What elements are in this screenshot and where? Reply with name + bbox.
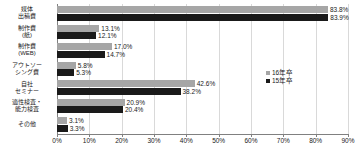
bar-16年卒 <box>57 117 67 124</box>
bar-value-label: 83.9% <box>328 14 348 21</box>
x-tick-label-50: 50% <box>204 137 234 145</box>
x-tick-label-90: 90% <box>333 137 363 145</box>
bar-16年卒 <box>57 43 112 50</box>
category-label-line: シング費 <box>1 69 53 76</box>
legend-item-0: 16年卒 <box>266 69 293 77</box>
legend-item-1: 15年卒 <box>266 77 293 85</box>
bar-group: 17.0% <box>57 43 348 50</box>
bar-16年卒 <box>57 62 76 69</box>
bar-15年卒 <box>57 125 68 132</box>
category-label: 適性検査・能力検査 <box>1 99 53 113</box>
chart-legend: 16年卒 15年卒 <box>266 69 293 85</box>
bar-value-label: 5.8% <box>76 62 93 69</box>
category-label: 制作費(WEB) <box>1 43 53 57</box>
category-label-line: アウトソー <box>1 62 53 69</box>
bar-row: 制作費(WEB)17.0%14.7% <box>0 41 364 60</box>
category-label-line: その他 <box>1 121 53 128</box>
bar-row: 制作費(紙)13.1%12.1% <box>0 23 364 42</box>
legend-swatch-icon-15 <box>266 79 270 83</box>
bar-row: 自社セミナー42.6%38.2% <box>0 78 364 97</box>
bar-group: 13.1% <box>57 25 348 32</box>
legend-label-15: 15年卒 <box>272 77 293 85</box>
category-label-line: (紙) <box>1 32 53 39</box>
category-label-line: 能力検査 <box>1 106 53 113</box>
category-label: その他 <box>1 121 53 128</box>
category-label-line: 自社 <box>1 81 53 88</box>
x-tick-label-10: 10% <box>74 137 104 145</box>
bar-15年卒 <box>57 14 328 21</box>
bar-15年卒 <box>57 51 105 58</box>
bar-value-label: 5.3% <box>74 69 91 76</box>
bar-row: 適性検査・能力検査20.9%20.4% <box>0 97 364 116</box>
bar-value-label: 20.9% <box>125 99 145 106</box>
bar-group: 83.9% <box>57 14 348 21</box>
bar-group: 3.1% <box>57 117 348 124</box>
bar-15年卒 <box>57 106 123 113</box>
bar-15年卒 <box>57 88 181 95</box>
category-label: アウトソーシング費 <box>1 62 53 76</box>
category-label-line: (WEB) <box>1 50 53 57</box>
bar-value-label: 3.1% <box>67 117 84 124</box>
bar-group: 38.2% <box>57 88 348 95</box>
bar-row: その他3.1%3.3% <box>0 115 364 134</box>
category-label: 媒体出稿費 <box>1 6 53 20</box>
horizontal-bar-chart: 媒体出稿費83.8%83.9%制作費(紙)13.1%12.1%制作費(WEB)1… <box>0 0 364 157</box>
bar-group: 20.9% <box>57 99 348 106</box>
x-axis-line <box>57 134 349 135</box>
bar-row: アウトソーシング費5.8%5.3% <box>0 60 364 79</box>
bar-group: 12.1% <box>57 32 348 39</box>
bar-group: 3.3% <box>57 125 348 132</box>
bar-row: 媒体出稿費83.8%83.9% <box>0 4 364 23</box>
bar-value-label: 17.0% <box>112 43 132 50</box>
category-label-line: 制作費 <box>1 25 53 32</box>
bar-16年卒 <box>57 80 195 87</box>
bar-group: 20.4% <box>57 106 348 113</box>
category-label: 自社セミナー <box>1 81 53 95</box>
bar-16年卒 <box>57 99 125 106</box>
x-tick-label-80: 80% <box>301 137 331 145</box>
legend-label-16: 16年卒 <box>272 69 293 77</box>
category-label-line: セミナー <box>1 88 53 95</box>
bar-15年卒 <box>57 32 96 39</box>
bar-15年卒 <box>57 69 74 76</box>
bar-group: 5.3% <box>57 69 348 76</box>
x-tick-label-20: 20% <box>107 137 137 145</box>
x-tick-label-0: 0% <box>42 137 72 145</box>
bar-value-label: 3.3% <box>68 125 85 132</box>
bar-16年卒 <box>57 25 99 32</box>
bar-value-label: 14.7% <box>105 51 125 58</box>
x-tick-label-40: 40% <box>171 137 201 145</box>
x-tick-label-60: 60% <box>236 137 266 145</box>
bar-value-label: 38.2% <box>181 88 201 95</box>
category-label-line: 出稿費 <box>1 13 53 20</box>
legend-swatch-icon-16 <box>266 71 270 75</box>
category-label-line: 制作費 <box>1 43 53 50</box>
bar-group: 14.7% <box>57 51 348 58</box>
bar-group: 42.6% <box>57 80 348 87</box>
bar-value-label: 12.1% <box>96 32 116 39</box>
bar-group: 83.8% <box>57 6 348 13</box>
category-label: 制作費(紙) <box>1 25 53 39</box>
x-tick-label-70: 70% <box>268 137 298 145</box>
bar-group: 5.8% <box>57 62 348 69</box>
x-tick-label-30: 30% <box>139 137 169 145</box>
bar-value-label: 83.8% <box>328 6 348 13</box>
bar-value-label: 13.1% <box>99 25 119 32</box>
bar-16年卒 <box>57 6 328 13</box>
bar-value-label: 20.4% <box>123 106 143 113</box>
bar-value-label: 42.6% <box>195 80 215 87</box>
